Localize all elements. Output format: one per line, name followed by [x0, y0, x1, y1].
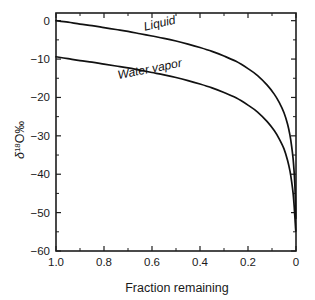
y-tick-label: −60	[30, 245, 50, 257]
y-axis-title: δ18O‰	[13, 120, 27, 159]
delta-o18-rayleigh-chart: 1.00.80.60.40.20 0−10−20−30−40−50−60 Liq…	[0, 0, 315, 300]
figure-container: 1.00.80.60.40.20 0−10−20−30−40−50−60 Liq…	[0, 0, 315, 300]
series-curve-water-vapor	[56, 57, 296, 231]
y-tick-labels: 0−10−20−30−40−50−60	[30, 15, 50, 257]
x-tick-label: 0.2	[240, 256, 256, 268]
y-tick-label: −20	[30, 91, 50, 103]
x-tick-label: 0.8	[96, 256, 112, 268]
series-annotations: LiquidWater vapor	[116, 13, 184, 82]
y-tick-label: 0	[44, 15, 50, 27]
curves-group	[56, 21, 296, 231]
x-tick-label: 1.0	[48, 256, 64, 268]
series-label-liquid: Liquid	[142, 13, 177, 34]
x-axis-title: Fraction remaining	[125, 281, 229, 295]
y-tick-label: −10	[30, 53, 50, 65]
y-tick-label: −50	[30, 207, 50, 219]
y-tick-label: −30	[30, 130, 50, 142]
ticks-group	[56, 13, 296, 251]
series-curve-liquid	[56, 21, 296, 219]
y-tick-label: −40	[30, 168, 50, 180]
svg-text:δ18O‰: δ18O‰	[13, 120, 27, 159]
y-axis-title-permil: ‰	[13, 120, 27, 133]
axes-group	[56, 13, 296, 251]
series-label-water-vapor: Water vapor	[116, 56, 184, 82]
y-axis-title-element: O	[13, 133, 27, 143]
x-tick-labels: 1.00.80.60.40.20	[48, 256, 299, 268]
x-tick-label: 0.6	[144, 256, 160, 268]
x-tick-label: 0	[293, 256, 299, 268]
x-tick-label: 0.4	[192, 256, 209, 268]
